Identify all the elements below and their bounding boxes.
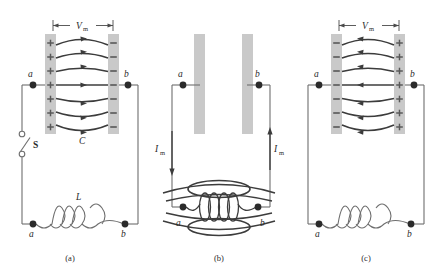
node-dot-c-top-right: [411, 82, 418, 89]
node-dot-a-top-left: [30, 82, 37, 89]
node-label-c-top-left: a: [314, 69, 319, 79]
node-dot-c-bottom-left: [316, 221, 323, 228]
node-dot-b-top-right: [256, 82, 263, 89]
node-label-b-top-right: b: [255, 69, 260, 79]
capacitor-label-a: C: [79, 136, 86, 146]
panel-caption-b: (b): [214, 253, 224, 263]
figure-canvas: V m: [0, 0, 438, 274]
node-label-b-bottom-left: a: [176, 218, 181, 228]
node-dot-c-top-left: [316, 82, 323, 89]
node-dot-b-top-left: [180, 82, 187, 89]
node-dot-b-bottom-right: [255, 204, 262, 211]
node-label-a-top-left: a: [28, 69, 33, 79]
node-label-b-top-left: a: [178, 69, 183, 79]
node-label-c-bottom-right: b: [407, 229, 412, 239]
node-dot-a-bottom-right: [122, 221, 129, 228]
lc-circuit-figure: V m: [0, 0, 438, 274]
voltage-subscript-c: m: [369, 25, 374, 32]
capacitor-plate-right-a: [108, 34, 119, 134]
node-dot-a-top-right: [125, 82, 132, 89]
capacitor-plate-left-b: [194, 34, 205, 134]
node-label-b-bottom-right: b: [260, 218, 265, 228]
node-label-c-bottom-left: a: [315, 229, 320, 239]
current-subscript-right-b: m: [279, 149, 284, 156]
node-label-c-top-right: b: [410, 69, 415, 79]
node-label-a-bottom-left: a: [29, 229, 34, 239]
switch-label-a: S: [33, 140, 38, 150]
panel-caption-a: (a): [65, 253, 75, 263]
node-dot-b-bottom-left: [180, 204, 187, 211]
node-dot-a-bottom-left: [30, 221, 37, 228]
panel-caption-c: (c): [361, 253, 371, 263]
node-dot-c-bottom-right: [408, 221, 415, 228]
inductor-label-a: L: [75, 192, 81, 202]
capacitor-plate-left-c: [331, 34, 342, 134]
node-label-a-bottom-right: b: [121, 229, 126, 239]
node-label-a-top-right: b: [124, 69, 129, 79]
capacitor-plate-right-b: [242, 34, 253, 134]
voltage-subscript-a: m: [83, 25, 88, 32]
current-subscript-left-b: m: [160, 149, 165, 156]
